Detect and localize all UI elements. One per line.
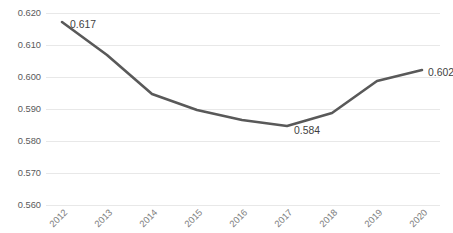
y-tick-label-0560: 0.560 [18, 200, 41, 210]
line-chart: 0.620 0.610 0.600 0.590 0.580 0.570 0.56… [0, 0, 453, 233]
data-label-2017: 0.584 [294, 125, 320, 136]
y-tick-label-0600: 0.600 [18, 72, 41, 82]
data-series-line [62, 22, 422, 126]
y-tick-label-0570: 0.570 [18, 168, 41, 178]
y-tick-label-0620: 0.620 [18, 8, 41, 18]
series-polyline [62, 22, 422, 126]
y-tick-label-0610: 0.610 [18, 40, 41, 50]
y-tick-label-0590: 0.590 [18, 104, 41, 114]
gridlines-group [46, 14, 440, 206]
data-label-2012: 0.617 [70, 19, 96, 30]
y-tick-label-0580: 0.580 [18, 136, 41, 146]
y-axis-tick-labels: 0.620 0.610 0.600 0.590 0.580 0.570 0.56… [18, 8, 41, 210]
chart-caption [2, 226, 451, 233]
data-label-2020: 0.602 [428, 67, 453, 78]
chart-canvas: 0.620 0.610 0.600 0.590 0.580 0.570 0.56… [0, 0, 453, 233]
